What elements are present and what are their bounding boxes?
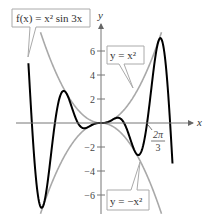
- callout-upper: y = x²: [107, 46, 144, 88]
- y-tick-label: −2: [84, 142, 95, 153]
- x-annotation-denominator: 3: [156, 142, 161, 153]
- callout-f: f(x) = x² sin 3x: [12, 9, 90, 57]
- callout-lower: y = −x²: [107, 162, 149, 210]
- y-tick-label: 6: [90, 46, 95, 57]
- chart: xy642−2−4−62π3 f(x) = x² sin 3xy = x²y =…: [0, 0, 206, 217]
- y-tick-label: −4: [84, 166, 95, 177]
- y-tick-label: 4: [90, 70, 95, 81]
- callout-upper-text: y = x²: [110, 49, 137, 61]
- callout-lower-text: y = −x²: [110, 195, 143, 207]
- y-tick-label: −6: [84, 190, 95, 201]
- callout-f-text: f(x) = x² sin 3x: [16, 12, 83, 25]
- y-axis-label: y: [97, 9, 103, 21]
- y-tick-label: 2: [90, 94, 95, 105]
- x-annotation-numerator: 2π: [153, 129, 164, 140]
- x-annotation-pointer: [148, 125, 152, 130]
- x-axis-label: x: [196, 116, 202, 128]
